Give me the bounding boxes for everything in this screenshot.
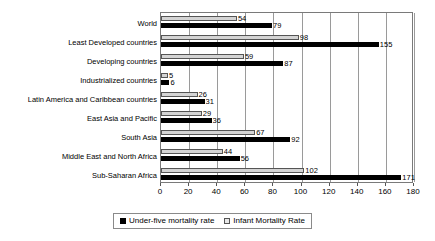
- axis-tick: [216, 183, 217, 186]
- legend-item-under-five: Under-five mortality rate: [120, 216, 214, 226]
- chart-row: Middle East and North Africa4456: [161, 146, 412, 165]
- chart-row: Sub-Saharan Africa102171: [161, 165, 412, 184]
- bar-infant-mortality: 44: [161, 149, 223, 154]
- bar-value-label: 67: [256, 129, 264, 137]
- bar-infant-mortality: 29: [161, 111, 202, 116]
- category-label: Latin America and Caribbean countries: [28, 94, 157, 103]
- axis-tick-label: 120: [322, 187, 335, 196]
- bar-under-five-mortality: 155: [161, 42, 379, 47]
- bar-under-five-mortality: 6: [161, 80, 169, 85]
- category-label: Industrialized countries: [80, 75, 157, 84]
- chart-row: East Asia and Pacific2936: [161, 108, 412, 127]
- legend-label-infant: Infant Mortality Rate: [233, 216, 305, 226]
- legend-swatch-infant-icon: [224, 218, 230, 224]
- chart-row: World5479: [161, 13, 412, 32]
- chart-legend: Under-five mortality rate Infant Mortali…: [113, 213, 312, 229]
- axis-tick-label: 60: [240, 187, 249, 196]
- bar-value-label: 155: [380, 41, 393, 49]
- category-label: Least Developed countries: [68, 37, 157, 46]
- axis-tick: [160, 183, 161, 186]
- bar-value-label: 56: [241, 155, 249, 163]
- bar-value-label: 98: [300, 34, 308, 42]
- bar-value-label: 54: [238, 15, 246, 23]
- bar-under-five-mortality: 79: [161, 23, 272, 28]
- axis-tick-label: 160: [378, 187, 391, 196]
- bar-value-label: 79: [273, 22, 281, 30]
- bar-infant-mortality: 26: [161, 92, 198, 97]
- bar-infant-mortality: 59: [161, 54, 244, 59]
- axis-tick-label: 100: [294, 187, 307, 196]
- axis-tick-label: 80: [268, 187, 277, 196]
- axis-tick: [357, 183, 358, 186]
- chart-row: Latin America and Caribbean countries263…: [161, 89, 412, 108]
- category-label: Middle East and North Africa: [62, 151, 157, 160]
- axis-tick: [385, 183, 386, 186]
- axis-tick: [329, 183, 330, 186]
- mortality-rate-bar-chart: World5479Least Developed countries98155D…: [0, 0, 435, 241]
- axis-tick-label: 20: [184, 187, 193, 196]
- bar-under-five-mortality: 31: [161, 99, 205, 104]
- bar-infant-mortality: 54: [161, 16, 237, 21]
- legend-swatch-under-five-icon: [120, 218, 126, 224]
- bar-under-five-mortality: 171: [161, 175, 401, 180]
- chart-row: Industrialized countries56: [161, 70, 412, 89]
- bar-value-label: 44: [224, 148, 232, 156]
- bar-under-five-mortality: 36: [161, 118, 212, 123]
- chart-row: South Asia6792: [161, 127, 412, 146]
- bar-under-five-mortality: 87: [161, 61, 283, 66]
- chart-row: Developing countries5987: [161, 51, 412, 70]
- category-label: Sub-Saharan Africa: [92, 170, 157, 179]
- category-label: East Asia and Pacific: [87, 113, 157, 122]
- bar-value-label: 59: [245, 53, 253, 61]
- bar-value-label: 171: [402, 174, 415, 182]
- bar-value-label: 92: [291, 136, 299, 144]
- bar-value-label: 31: [206, 98, 214, 106]
- bar-infant-mortality: 102: [161, 168, 304, 173]
- bar-value-label: 36: [213, 117, 221, 125]
- category-label: World: [138, 18, 157, 27]
- axis-tick-label: 180: [406, 187, 419, 196]
- bar-infant-mortality: 98: [161, 35, 299, 40]
- bar-value-label: 102: [305, 167, 318, 175]
- plot-area: World5479Least Developed countries98155D…: [160, 12, 413, 183]
- bar-value-label: 87: [284, 60, 292, 68]
- axis-tick-label: 0: [158, 187, 162, 196]
- axis-tick: [244, 183, 245, 186]
- axis-tick: [413, 183, 414, 186]
- axis-tick-label: 40: [212, 187, 221, 196]
- bar-value-label: 6: [170, 79, 174, 87]
- axis-tick: [301, 183, 302, 186]
- chart-row: Least Developed countries98155: [161, 32, 412, 51]
- bar-under-five-mortality: 56: [161, 156, 240, 161]
- axis-tick-label: 140: [350, 187, 363, 196]
- x-axis: 020406080100120140160180: [160, 183, 413, 199]
- category-label: South Asia: [121, 132, 157, 141]
- axis-tick: [188, 183, 189, 186]
- bar-value-label: 29: [203, 110, 211, 118]
- legend-item-infant: Infant Mortality Rate: [224, 216, 305, 226]
- legend-label-under-five: Under-five mortality rate: [129, 216, 214, 226]
- gridline: [414, 13, 415, 182]
- bar-under-five-mortality: 92: [161, 137, 290, 142]
- bar-infant-mortality: 67: [161, 130, 255, 135]
- axis-tick: [272, 183, 273, 186]
- category-label: Developing countries: [87, 56, 157, 65]
- bar-infant-mortality: 5: [161, 73, 168, 78]
